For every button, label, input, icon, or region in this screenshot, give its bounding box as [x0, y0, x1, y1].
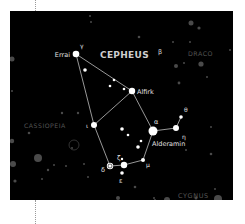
label-epsilon: ε	[119, 177, 123, 185]
label-cygnus: CYGNUS	[178, 192, 209, 200]
label-draco: DRACO	[188, 50, 213, 57]
label-cassiopeia: CASSIOPEIA	[24, 122, 66, 129]
label-iota: ι	[86, 122, 88, 129]
label-gamma: γ	[80, 42, 84, 50]
label-delta: δ	[101, 166, 105, 174]
guide-line-bottom	[35, 200, 36, 224]
label-mu: μ	[146, 161, 150, 169]
constellation-lines	[76, 54, 181, 166]
label-alderamin: Alderamin	[152, 140, 185, 148]
star-iota	[91, 122, 97, 128]
star-chart-panel: Errai γ CEPHEUS β DRACO Alfirk ι CASSIOP…	[10, 11, 233, 200]
star-chart: Errai γ CEPHEUS β DRACO Alfirk ι CASSIOP…	[10, 11, 233, 200]
star-alfirk	[129, 88, 135, 94]
guide-line-top	[35, 0, 36, 11]
label-beta: β	[158, 48, 162, 56]
star-delta	[107, 163, 113, 169]
star-alderamin	[149, 127, 158, 136]
star-zeta	[121, 162, 127, 168]
star-theta	[179, 115, 183, 119]
star-epsilon	[120, 171, 124, 175]
star-mu	[141, 158, 145, 162]
label-cepheus: CEPHEUS	[100, 50, 149, 60]
label-alpha: α	[154, 118, 158, 126]
minor-stars	[83, 68, 142, 160]
star-errai	[73, 51, 80, 58]
star-eta	[173, 125, 179, 131]
label-zeta: ζ	[117, 154, 121, 162]
label-theta: θ	[184, 106, 188, 113]
label-alfirk: Alfirk	[137, 88, 154, 96]
label-errai: Errai	[55, 51, 70, 59]
label-eta: η	[182, 133, 186, 141]
